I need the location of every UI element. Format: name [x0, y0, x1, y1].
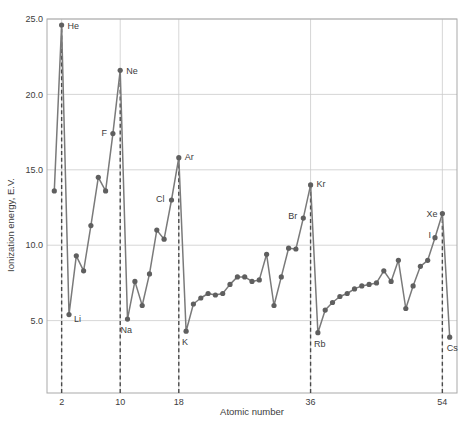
data-point-s [162, 237, 167, 242]
element-label-li: Li [74, 314, 81, 324]
y-tick-label: 25.0 [25, 14, 43, 24]
data-point-n [96, 175, 101, 180]
data-point-cd [396, 258, 401, 263]
element-label-br: Br [288, 211, 297, 221]
data-point-cr [220, 291, 225, 296]
data-point-pd [381, 268, 386, 273]
y-axis-title: Ionization energy, E.V. [5, 178, 16, 272]
data-point-zn [264, 252, 269, 257]
data-point-ca [191, 301, 196, 306]
data-point-na [125, 317, 130, 322]
element-label-he: He [68, 21, 80, 31]
data-point-in [403, 306, 408, 311]
data-point-sr [323, 308, 328, 313]
data-point-c [88, 223, 93, 228]
data-point-y [330, 300, 335, 305]
element-label-ar: Ar [185, 152, 194, 162]
data-point-ru [367, 282, 372, 287]
element-label-i: I [428, 230, 431, 240]
data-point-rh [374, 280, 379, 285]
data-point-se [293, 246, 298, 251]
data-point-be [74, 253, 79, 258]
data-point-o [103, 188, 108, 193]
element-label-kr: Kr [317, 179, 326, 189]
data-point-cu [257, 277, 262, 282]
data-point-co [242, 274, 247, 279]
plot-frame [47, 19, 457, 393]
data-point-f [110, 131, 115, 136]
data-point-mg [132, 279, 137, 284]
data-point-sc [198, 295, 203, 300]
data-point-k [184, 329, 189, 334]
data-point-b [81, 268, 86, 273]
x-tick-label: 54 [437, 397, 447, 407]
y-tick-label: 15.0 [25, 165, 43, 175]
data-point-h [52, 188, 57, 193]
data-point-cs [447, 335, 452, 340]
data-point-kr [308, 182, 313, 187]
x-tick-label: 36 [306, 397, 316, 407]
element-label-rb: Rb [314, 339, 326, 349]
data-point-ge [279, 274, 284, 279]
data-point-cl [169, 197, 174, 202]
data-point-fe [235, 274, 240, 279]
element-label-ne: Ne [126, 66, 138, 76]
element-label-na: Na [121, 325, 133, 335]
data-point-br [301, 216, 306, 221]
data-point-mo [352, 286, 357, 291]
data-point-mn [227, 282, 232, 287]
element-label-k: K [182, 337, 188, 347]
series-line [54, 25, 449, 337]
gridlines [47, 19, 457, 393]
data-point-ne [118, 68, 123, 73]
data-point-ni [249, 279, 254, 284]
x-axis-title: Atomic number [220, 406, 284, 417]
data-point-v [213, 292, 218, 297]
chart-canvas: HeLiFNeNaClArKBrKrRbIXeCs 5.010.015.020.… [0, 0, 471, 428]
x-tick-label: 2 [59, 397, 64, 407]
data-point-ar [176, 155, 181, 160]
data-point-nb [345, 291, 350, 296]
data-point-ti [206, 291, 211, 296]
element-labels: HeLiFNeNaClArKBrKrRbIXeCs [68, 21, 459, 353]
element-label-xe: Xe [426, 209, 437, 219]
data-point-ga [271, 303, 276, 308]
data-point-sb [418, 264, 423, 269]
x-tick-label: 18 [174, 397, 184, 407]
y-tick-label: 10.0 [25, 240, 43, 250]
data-point-sn [411, 283, 416, 288]
data-point-ag [389, 279, 394, 284]
data-point-li [66, 312, 71, 317]
data-point-rb [315, 330, 320, 335]
data-line [54, 25, 449, 337]
ionization-energy-chart: HeLiFNeNaClArKBrKrRbIXeCs 5.010.015.020.… [0, 0, 471, 428]
data-point-xe [440, 211, 445, 216]
y-tick-label: 5.0 [30, 316, 43, 326]
x-tick-label: 10 [115, 397, 125, 407]
data-point-as [286, 246, 291, 251]
element-label-cl: Cl [156, 194, 165, 204]
y-tick-label: 20.0 [25, 90, 43, 100]
data-points [52, 22, 453, 339]
element-label-f: F [101, 128, 107, 138]
data-point-zr [337, 294, 342, 299]
data-point-te [425, 258, 430, 263]
data-point-he [59, 22, 64, 27]
data-point-p [154, 228, 159, 233]
data-point-al [140, 303, 145, 308]
element-label-cs: Cs [447, 343, 458, 353]
tick-labels: 5.010.015.020.025.0210183654 [25, 14, 447, 407]
data-point-si [147, 271, 152, 276]
data-point-tc [359, 283, 364, 288]
data-point-i [432, 235, 437, 240]
